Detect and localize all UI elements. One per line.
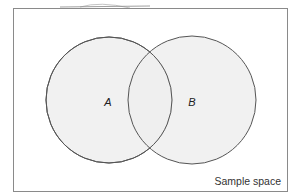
set-b-label: B [188,96,195,108]
set-a-label: A [104,96,111,108]
venn-diagram [0,0,291,195]
sample-space-caption: Sample space [214,175,281,187]
